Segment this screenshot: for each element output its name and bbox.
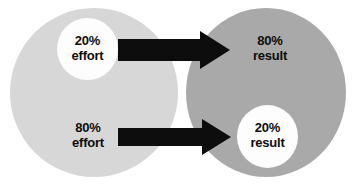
effort-20-percent: 20% (57, 33, 118, 48)
effort-80-percent: 80% (55, 120, 121, 135)
arrow-effort80-to-result20-icon (118, 119, 231, 155)
arrow-effort20-to-result80-icon (118, 31, 230, 69)
pareto-diagram: 20% effort 80% effort 80% result 20% res… (0, 0, 354, 185)
effort-20-word: effort (57, 48, 118, 63)
effort-20-label: 20% effort (57, 33, 118, 64)
result-20-percent: 20% (237, 120, 298, 135)
result-80-word: result (237, 48, 303, 63)
result-80-label: 80% result (237, 33, 303, 64)
result-20-label: 20% result (237, 120, 298, 151)
effort-80-word: effort (55, 135, 121, 150)
result-80-percent: 80% (237, 33, 303, 48)
result-20-word: result (237, 135, 298, 150)
effort-80-label: 80% effort (55, 120, 121, 151)
